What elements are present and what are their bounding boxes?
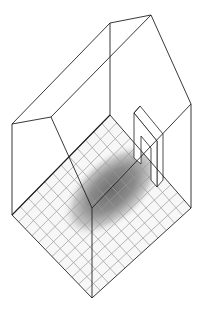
diagram-canvas	[0, 0, 202, 311]
room-illustration	[0, 0, 202, 311]
floor	[12, 115, 191, 298]
